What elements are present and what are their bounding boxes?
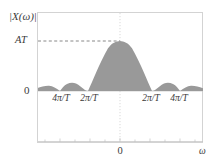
x-tick-label-positive-4pi-over-t: 4π/T <box>165 94 193 104</box>
y-tick-label-zero: 0 <box>24 85 30 96</box>
x-tick-label-negative-4pi-over-t: 4π/T <box>47 94 75 104</box>
fourier-transform-magnitude-figure: |X(ω)| AT 0 4π/T 2π/T 2π/T 4π/T 0 ω <box>0 0 222 165</box>
x-tick-label-negative-2pi-over-t: 2π/T <box>75 94 103 104</box>
x-tick-label-positive-2pi-over-t: 2π/T <box>137 94 165 104</box>
y-axis-title: |X(ω)| <box>9 11 37 22</box>
x-axis-title: ω <box>199 147 206 157</box>
plot-canvas <box>0 0 222 165</box>
bottom-axis-origin-label: 0 <box>113 146 127 157</box>
y-tick-label-at: AT <box>15 35 27 46</box>
sinc-magnitude-curve <box>37 41 203 91</box>
bottom-axis-ticks <box>45 138 195 142</box>
